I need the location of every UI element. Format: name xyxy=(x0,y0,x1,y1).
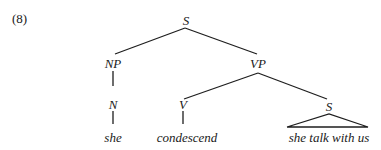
node-vp: VP xyxy=(250,57,266,70)
edge-s-np xyxy=(115,28,185,54)
leaf-embedded-clause: she talk with us xyxy=(289,131,370,144)
syntax-tree-diagram: (8) S NP N she VP V condescend S she tal… xyxy=(0,0,381,150)
leaf-she: she xyxy=(104,131,121,144)
leaf-condescend: condescend xyxy=(157,131,218,144)
node-np: NP xyxy=(105,57,122,70)
node-s-embedded: S xyxy=(326,100,333,113)
edge-vp-s xyxy=(258,73,327,99)
node-v: V xyxy=(179,98,187,111)
tree-edges xyxy=(0,0,381,150)
node-n: N xyxy=(109,98,118,111)
edge-s-vp xyxy=(185,28,257,54)
triangle-s-embedded xyxy=(287,114,368,127)
edge-vp-v xyxy=(184,73,258,99)
node-s-root: S xyxy=(183,14,190,27)
